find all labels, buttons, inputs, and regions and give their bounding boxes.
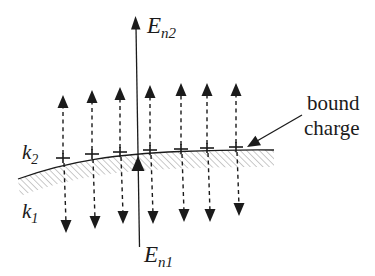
field-arrow-up-head: [145, 85, 156, 98]
field-arrow-down-head: [90, 216, 101, 229]
field-arrow-down-head: [179, 209, 190, 222]
field-arrow-down-head: [118, 211, 129, 224]
field-arrow-up-head: [231, 83, 242, 96]
interface-hatched-band: [18, 150, 274, 196]
field-arrow-down-head: [205, 209, 216, 222]
figure-canvas: En2 En1 k2 k1 bound charge: [0, 0, 375, 276]
field-arrow-up-head: [58, 95, 69, 108]
bound-charge-leader-arrow: [247, 115, 302, 147]
field-arrow-down-head: [61, 220, 72, 233]
field-arrow-up-head: [176, 83, 187, 96]
k1-region-label: k1: [22, 199, 38, 226]
bound-charge-label-line1: bound: [307, 91, 360, 115]
e-n2-arrowhead: [131, 16, 141, 30]
e-n1-label: En1: [143, 242, 173, 270]
field-arrow-up-head: [202, 83, 213, 96]
leader-line: [257, 115, 302, 141]
k2-region-label: k2: [22, 140, 38, 167]
field-arrow-down-head: [148, 211, 159, 224]
field-arrow-down-head: [234, 203, 245, 216]
field-arrow-up-head: [87, 90, 98, 103]
axis-line: [136, 27, 140, 247]
bound-charge-label-line2: charge: [304, 116, 360, 140]
field-arrow-up-head: [115, 87, 126, 100]
normal-field-axis: [131, 16, 145, 247]
dielectric-interface-diagram: En2 En1 k2 k1 bound charge: [0, 0, 375, 276]
e-n2-label: En2: [146, 13, 177, 41]
leader-arrowhead: [247, 136, 261, 147]
